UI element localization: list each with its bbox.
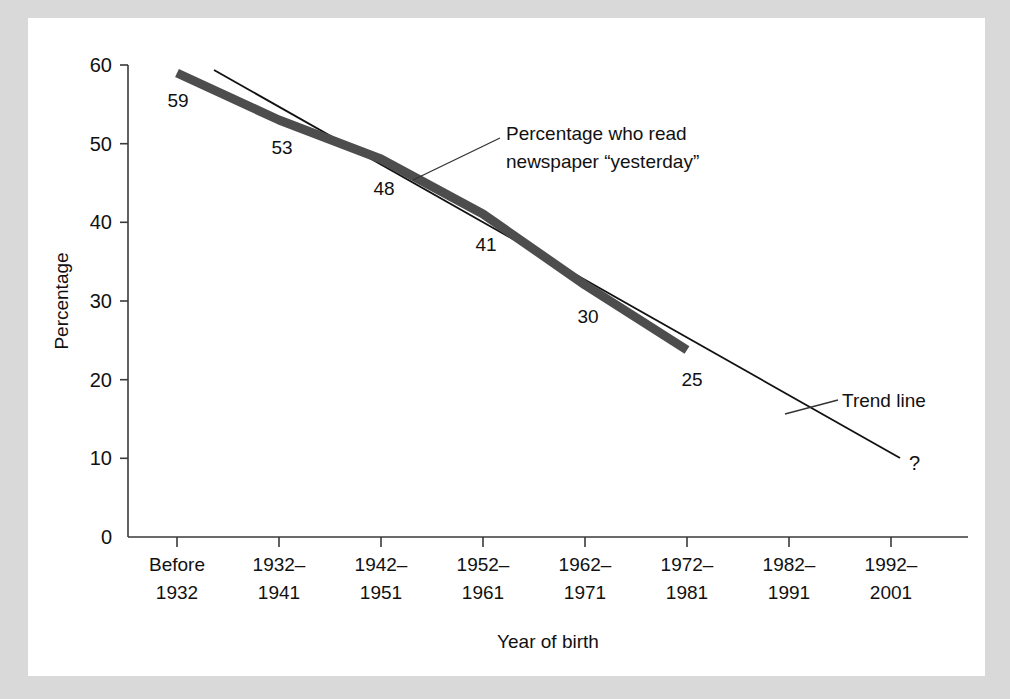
series-annotation-leader-line — [413, 138, 500, 180]
x-tick-label-4-line2: 1971 — [564, 582, 606, 603]
x-tick-label-5-line1: 1972– — [661, 554, 714, 575]
x-tick-label-2-line2: 1951 — [360, 582, 402, 603]
chart-canvas: 60 50 40 30 20 10 0 Percentage Before — [28, 18, 985, 676]
y-tick-label-0: 0 — [101, 526, 112, 548]
x-tick-label-1-line2: 1941 — [258, 582, 300, 603]
x-tick-label-3-line2: 1961 — [462, 582, 504, 603]
x-tick-label-7-line1: 1992– — [865, 554, 918, 575]
y-tick-label-50: 50 — [90, 133, 112, 155]
x-tick-label-6-line1: 1982– — [763, 554, 816, 575]
x-tick-label-0-line1: Before — [149, 554, 205, 575]
y-tick-label-40: 40 — [90, 211, 112, 233]
data-label-48: 48 — [373, 178, 394, 199]
data-label-30: 30 — [577, 306, 598, 327]
figure-card: 60 50 40 30 20 10 0 Percentage Before — [28, 18, 985, 676]
x-tick-label-3-line1: 1952– — [457, 554, 510, 575]
series-annotation-line1: Percentage who read — [506, 123, 687, 144]
y-tick-label-30: 30 — [90, 290, 112, 312]
x-tick-label-4-line1: 1962– — [559, 554, 612, 575]
y-tick-label-60: 60 — [90, 54, 112, 76]
x-tick-label-2-line1: 1942– — [355, 554, 408, 575]
y-tick-label-20: 20 — [90, 369, 112, 391]
data-label-25: 25 — [681, 369, 702, 390]
x-axis: Before 1932 1932– 1941 1942– 1951 1952– … — [128, 537, 968, 652]
data-label-41: 41 — [475, 234, 496, 255]
x-tick-label-1-line1: 1932– — [253, 554, 306, 575]
x-axis-title: Year of birth — [497, 631, 599, 652]
x-tick-label-6-line2: 1991 — [768, 582, 810, 603]
trend-annotation-label: Trend line — [842, 390, 926, 411]
data-label-53: 53 — [271, 137, 292, 158]
x-tick-label-7-line2: 2001 — [870, 582, 912, 603]
x-tick-label-5-line2: 1981 — [666, 582, 708, 603]
series-annotation-line2: newspaper “yesterday” — [506, 151, 699, 172]
data-label-59: 59 — [167, 90, 188, 111]
newspaper-readership-band — [177, 73, 687, 350]
trend-line-question-mark: ? — [909, 452, 920, 474]
figure-page: 60 50 40 30 20 10 0 Percentage Before — [0, 0, 1010, 699]
trend-annotation-leader-line — [785, 400, 838, 414]
y-axis: 60 50 40 30 20 10 0 Percentage — [51, 54, 128, 548]
y-tick-label-10: 10 — [90, 447, 112, 469]
y-axis-title: Percentage — [51, 252, 72, 349]
x-tick-label-0-line2: 1932 — [156, 582, 198, 603]
